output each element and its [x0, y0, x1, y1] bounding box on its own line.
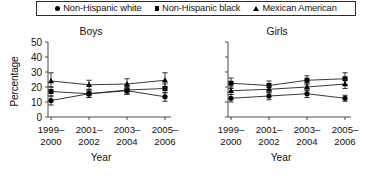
legend-entry-non-hispanic-black: Non-Hispanic black [155, 4, 241, 13]
x-tick-line2: 2006 [324, 136, 366, 148]
x-tick-label-boys-3: 2005– 2006 [144, 124, 186, 147]
x-tick-line1: 2001– [68, 124, 110, 136]
x-tick-line1: 1999– [210, 124, 252, 136]
x-axis-label-girls: Year [236, 152, 326, 163]
triangle-marker-icon [253, 6, 259, 11]
x-tick-line2: 2000 [30, 136, 72, 148]
legend-entry-mexican-american: Mexican American [253, 4, 336, 13]
x-tick-line1: 2005– [144, 124, 186, 136]
x-tick-line2: 2000 [210, 136, 252, 148]
x-tick-line2: 2004 [106, 136, 148, 148]
x-tick-line2: 2006 [144, 136, 186, 148]
x-tick-label-girls-1: 2001– 2002 [248, 124, 290, 147]
circle-marker-icon [55, 6, 60, 11]
x-tick-line2: 2002 [68, 136, 110, 148]
x-tick-line1: 1999– [30, 124, 72, 136]
x-tick-label-girls-2: 2003– 2004 [286, 124, 328, 147]
x-tick-label-boys-1: 2001– 2002 [68, 124, 110, 147]
figure-container: Non-Hispanic white Non-Hispanic black Me… [0, 0, 390, 178]
x-tick-line1: 2001– [248, 124, 290, 136]
x-tick-line1: 2005– [324, 124, 366, 136]
x-tick-line1: 2003– [286, 124, 328, 136]
x-tick-label-boys-0: 1999– 2000 [30, 124, 72, 147]
legend-label-non-hispanic-white: Non-Hispanic white [63, 4, 141, 13]
panel-boys: Boys Percentage 50 40 30 20 10 0 1999– 2… [0, 24, 200, 178]
x-tick-line2: 2002 [248, 136, 290, 148]
x-axis-label-boys: Year [56, 152, 146, 163]
legend-label-non-hispanic-black: Non-Hispanic black [162, 4, 240, 13]
x-tick-label-boys-2: 2003– 2004 [106, 124, 148, 147]
x-tick-line2: 2004 [286, 136, 328, 148]
legend-entry-non-hispanic-white: Non-Hispanic white [55, 4, 141, 13]
square-marker-icon [155, 6, 160, 11]
legend-label-mexican-american: Mexican American [262, 4, 336, 13]
x-tick-label-girls-3: 2005– 2006 [324, 124, 366, 147]
panel-girls: Girls 1999– 2000 2001– 2002 2003– 2004 2… [196, 24, 390, 178]
x-tick-line1: 2003– [106, 124, 148, 136]
x-tick-label-girls-0: 1999– 2000 [210, 124, 252, 147]
chart-legend: Non-Hispanic white Non-Hispanic black Me… [36, 1, 356, 16]
